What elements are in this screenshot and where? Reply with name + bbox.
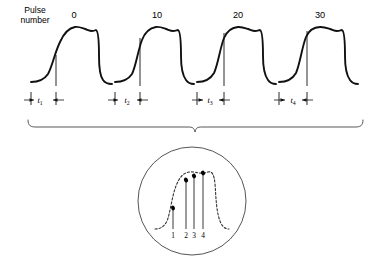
pulse-number-label-line1: Pulse [24,5,46,15]
dim-arrowhead-right-3 [302,98,307,101]
grouping-brace [28,120,363,132]
dim-arrowhead-right-1 [137,98,142,101]
inset-label-3: 3 [192,231,196,240]
dim-arrowhead-left-1 [114,98,119,101]
pulse-index-label-2: 20 [233,10,243,20]
pulse-waveform-0 [31,27,112,84]
dim-arrowhead-right-2 [219,98,224,101]
time-label-1: t2 [124,96,129,106]
pulse-train-figure: t1 t2 t3 t4 [0,0,377,274]
pulse-group-1 [115,27,194,86]
inset-label-4: 4 [201,231,205,240]
inset-dot-3 [191,173,197,179]
time-label-2: t3 [207,96,212,106]
pulse-index-label-1: 10 [152,10,162,20]
pulse-group-3 [279,27,358,86]
time-label-3: t4 [290,96,295,106]
dim-arrowhead-left-0 [30,98,35,101]
figure-container: t1 t2 t3 t4 [0,0,377,274]
dim-arrowhead-right-0 [53,98,58,101]
pulse-waveform-1 [115,27,194,84]
pulse-number-label-line2: number [20,15,49,25]
pulse-index-label-0: 0 [71,10,76,20]
dim-arrowhead-left-3 [281,98,286,101]
magnified-inset: 1 2 3 4 [138,147,246,255]
dim-arrowhead-left-2 [199,98,204,101]
pulse-index-label-3: 30 [315,10,325,20]
inset-stem-4: 4 [200,170,206,240]
inset-dot-4 [200,170,206,176]
pulse-group-2 [197,27,276,86]
inset-label-1: 1 [171,231,175,240]
inset-stem-1: 1 [170,205,175,240]
inset-stem-2: 2 [183,177,189,240]
time-label-0: t1 [37,96,42,106]
dimension-group-2: t3 [192,92,230,106]
inset-label-2: 2 [184,231,188,240]
inset-stem-3: 3 [191,173,197,240]
pulse-group-0 [31,27,112,86]
inset-dashed-waveform [155,172,229,229]
dimension-group-0: t1 [24,92,64,106]
pulse-waveform-2 [197,27,276,84]
pulse-waveform-3 [279,27,358,84]
dimension-group-1: t2 [108,92,148,106]
inset-dot-2 [183,177,189,183]
dimension-group-3: t4 [274,92,313,106]
